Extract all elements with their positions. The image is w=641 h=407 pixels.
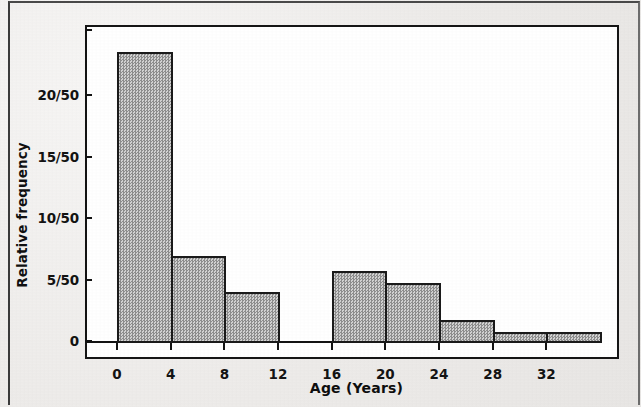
scanned-page: Relative frequency 05/5010/5015/5020/50 … (0, 0, 641, 407)
x-axis-tick-label: 24 (430, 366, 449, 382)
histogram-bar (439, 320, 495, 343)
histogram-figure: Relative frequency 05/5010/5015/5020/50 … (0, 0, 641, 407)
x-axis-tick (384, 343, 386, 350)
x-axis-tick (223, 343, 225, 350)
histogram-bar (493, 332, 549, 343)
x-axis-tick-label: 0 (112, 366, 121, 382)
x-axis-title: Age (Years) (310, 380, 403, 396)
x-axis-tick (116, 343, 118, 350)
histogram-bar (546, 332, 602, 343)
y-axis-tick-label: 10/50 (0, 210, 79, 226)
x-axis-tick-label: 8 (220, 366, 229, 382)
x-axis-tick-label: 4 (166, 366, 175, 382)
x-axis-tick-label: 32 (537, 366, 556, 382)
histogram-bar (224, 292, 280, 343)
x-axis-tick (331, 343, 333, 350)
x-axis-tick (277, 343, 279, 350)
histogram-bar (171, 256, 227, 343)
x-axis-tick (492, 343, 494, 350)
y-axis-tick-label: 0 (0, 333, 79, 349)
histogram-bar (385, 283, 441, 343)
y-axis-spine (85, 27, 87, 343)
x-axis-tick (170, 343, 172, 350)
x-axis-tick (438, 343, 440, 350)
histogram-bar (117, 52, 173, 343)
y-axis-tick-label: 15/50 (0, 149, 79, 165)
x-axis-tick-label: 12 (269, 366, 288, 382)
histogram-bar (332, 271, 388, 343)
y-axis-tick-label: 5/50 (0, 272, 79, 288)
x-axis-tick-label: 28 (483, 366, 502, 382)
y-axis-tick-label: 20/50 (0, 87, 79, 103)
x-axis-tick (545, 343, 547, 350)
